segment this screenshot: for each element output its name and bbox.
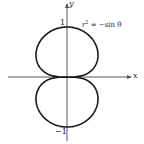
y-axis-label: y — [69, 0, 74, 8]
equation-rhs: = −sin θ — [89, 21, 122, 29]
y-tick-bottom: −1 — [55, 128, 67, 136]
equation-label: r2 = −sin θ — [82, 20, 122, 29]
x-axis-label: x — [133, 72, 138, 80]
y-tick-top: 1 — [60, 19, 65, 27]
polar-plot — [0, 0, 144, 144]
